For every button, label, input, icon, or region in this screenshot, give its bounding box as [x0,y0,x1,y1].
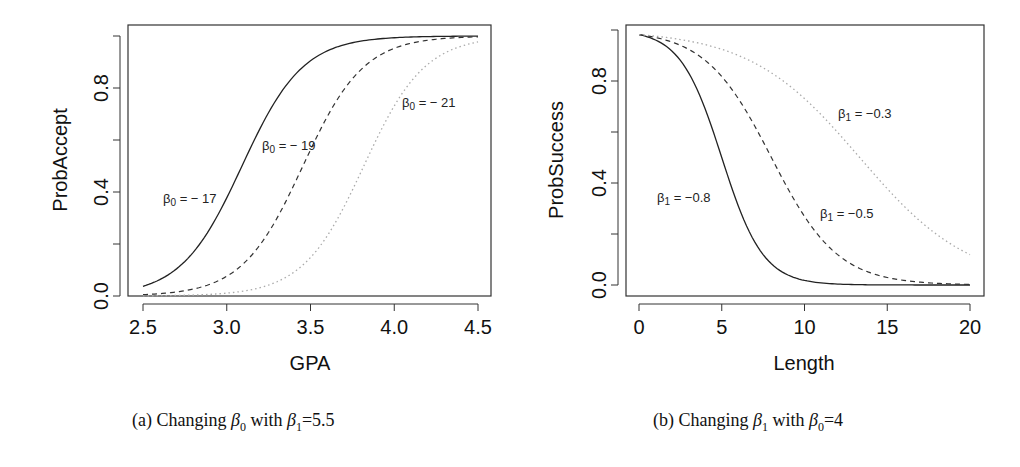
y-axis-b: 0.00.40.8 [588,30,618,299]
series-label: β1 = −0.5 [820,206,874,223]
x-axis-b: 05101520 [633,304,981,338]
y-tick-label: 0.0 [90,282,112,310]
caption-a-fixed: β [287,410,296,430]
curve-solid [639,35,970,285]
series-annotations-b: β1 = −0.8β1 = −0.5β1 = −0.3 [657,106,892,223]
y-tick-label: 0.4 [90,178,112,206]
caption-a-prefix: (a) Changing [132,410,231,430]
x-tick-label: 2.5 [129,316,157,338]
y-axis-label-b: ProbSuccess [545,101,567,219]
caption-a-mid: with [246,410,287,430]
curve-solid [143,36,478,286]
x-tick-label: 20 [959,316,981,338]
caption-b-fixed: β [809,410,818,430]
series-label: β1 = −0.3 [838,106,892,123]
curves-a [143,36,478,296]
x-tick-label: 10 [793,316,815,338]
caption-b: (b) Changing β1 with β0=4 [653,410,843,435]
caption-a-var: β [231,410,240,430]
x-tick-label: 5 [716,316,727,338]
curve-dashed [143,37,478,295]
caption-b-mid: with [768,410,809,430]
series-label: β0 = − 21 [402,95,456,112]
figure: 0.00.40.8 2.53.03.54.04.5 GPA ProbAccept… [0,0,1020,467]
series-annotations-a: β0 = − 17β0 = − 19β0 = − 21 [163,95,456,208]
caption-b-prefix: (b) Changing [653,410,753,430]
chart-panel-b: 0.00.40.8 05101520 Length ProbSuccess β1… [545,25,984,374]
series-label: β0 = − 17 [163,191,217,208]
series-label: β1 = −0.8 [657,190,711,207]
curve-dotted [143,42,478,296]
y-tick-label: 0.0 [588,271,610,299]
y-tick-label: 0.8 [588,67,610,95]
x-tick-label: 3.5 [297,316,325,338]
x-axis-label-a: GPA [290,352,331,374]
x-axis-a: 2.53.03.54.04.5 [129,304,492,338]
plot-frame-b [626,25,984,296]
plot-frame-a [128,25,491,296]
chart-panel-a: 0.00.40.8 2.53.03.54.04.5 GPA ProbAccept… [49,25,492,374]
y-tick-label: 0.4 [588,169,610,197]
caption-a-fixed-val: =5.5 [302,410,335,430]
curve-dotted [639,35,970,255]
x-tick-label: 0 [633,316,644,338]
series-label: β0 = − 19 [262,138,316,155]
x-tick-label: 15 [876,316,898,338]
x-tick-label: 4.0 [380,316,408,338]
x-tick-label: 4.5 [464,316,492,338]
x-axis-label-b: Length [773,352,834,374]
y-axis-a: 0.00.40.8 [90,36,120,310]
caption-b-fixed-val: =4 [824,410,843,430]
y-axis-label-a: ProbAccept [49,108,71,212]
curves-b [639,35,970,285]
caption-b-var: β [753,410,762,430]
x-tick-label: 3.0 [213,316,241,338]
caption-a: (a) Changing β0 with β1=5.5 [132,410,335,435]
y-tick-label: 0.8 [90,74,112,102]
